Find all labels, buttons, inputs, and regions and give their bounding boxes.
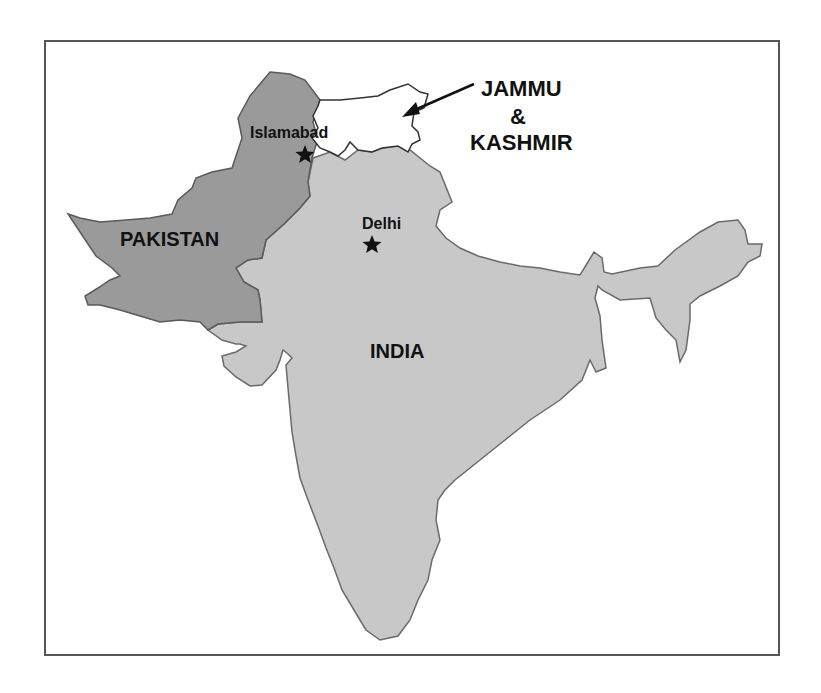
jk-label-line2: & <box>510 104 526 129</box>
jk-label-line1: JAMMU <box>481 76 562 101</box>
south-asia-map: JAMMU & KASHMIR PAKISTAN INDIA Islamabad… <box>0 0 821 693</box>
islamabad-label: Islamabad <box>250 124 328 141</box>
india-region <box>208 146 762 640</box>
pakistan-label: PAKISTAN <box>120 228 219 250</box>
jk-label-line3: KASHMIR <box>470 130 573 155</box>
india-label: INDIA <box>370 340 424 362</box>
delhi-label: Delhi <box>362 215 401 232</box>
jammu-kashmir-region <box>312 84 428 156</box>
